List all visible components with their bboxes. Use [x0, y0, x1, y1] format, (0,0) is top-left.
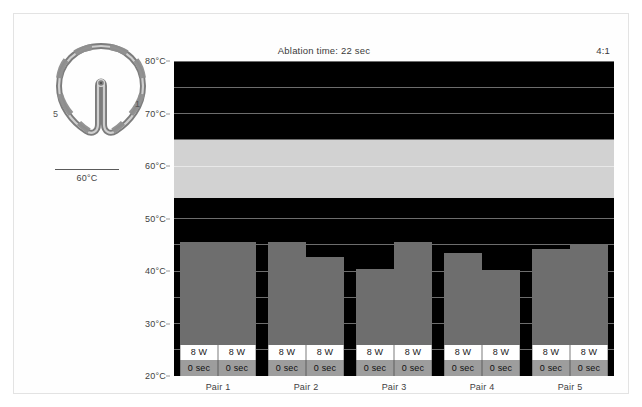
y-axis-tick-mark	[166, 323, 170, 324]
bar-time-label: 0 sec	[268, 360, 306, 376]
temperature-bar: 8 W0 sec	[180, 242, 218, 376]
temperature-bar: 8 W0 sec	[482, 270, 520, 376]
temperature-bar: 8 W0 sec	[306, 257, 344, 376]
temperature-bar: 8 W0 sec	[356, 269, 394, 376]
bar-time-label: 0 sec	[394, 360, 432, 376]
y-axis-tick-mark	[166, 61, 170, 62]
bar-time-label: 0 sec	[482, 360, 520, 376]
bar-time-label: 0 sec	[218, 360, 256, 376]
bar-time-label: 0 sec	[306, 360, 344, 376]
bar-time-label: 0 sec	[570, 360, 608, 376]
y-axis-tick-mark	[166, 166, 170, 167]
y-axis-tick-label: 30°C	[145, 319, 166, 329]
scale-legend-label: 60°C	[55, 173, 119, 183]
bar-time-label: 0 sec	[180, 360, 218, 376]
bar-power-label: 8 W	[532, 345, 570, 360]
x-axis-tick-label: Pair 5	[558, 382, 583, 392]
bar-power-label: 8 W	[218, 345, 256, 360]
bar-power-label: 8 W	[482, 345, 520, 360]
x-axis-tick-label: Pair 1	[206, 382, 231, 392]
bar-power-label: 8 W	[444, 345, 482, 360]
y-axis-tick-label: 80°C	[145, 56, 166, 66]
temperature-bar: 8 W0 sec	[532, 249, 570, 376]
y-axis-tick-mark	[166, 218, 170, 219]
bar-power-label: 8 W	[180, 345, 218, 360]
bar-power-label: 8 W	[570, 345, 608, 360]
y-axis-tick-label: 40°C	[145, 266, 166, 276]
bar-power-label: 8 W	[356, 345, 394, 360]
y-axis-tick-mark	[166, 376, 170, 377]
temperature-bar: 8 W0 sec	[268, 242, 306, 376]
temperature-bar: 8 W0 sec	[218, 242, 256, 376]
y-axis-tick-mark	[166, 271, 170, 272]
bar-power-label: 8 W	[306, 345, 344, 360]
scale-legend-line	[55, 169, 119, 170]
plot-ratio-label: 4:1	[596, 45, 610, 56]
x-axis-tick-label: Pair 2	[294, 382, 319, 392]
bar-power-label: 8 W	[268, 345, 306, 360]
y-axis: 20°C30°C40°C50°C60°C70°C80°C	[132, 61, 170, 376]
bar-time-label: 0 sec	[532, 360, 570, 376]
bar-time-label: 0 sec	[356, 360, 394, 376]
catheter-electrode-label-5: 5	[53, 109, 58, 119]
bar-series-container: 8 W0 sec8 W0 sec8 W0 sec8 W0 sec8 W0 sec…	[174, 61, 614, 376]
plot-area: 8 W0 sec8 W0 sec8 W0 sec8 W0 sec8 W0 sec…	[174, 61, 614, 376]
y-axis-tick-mark	[166, 113, 170, 114]
y-axis-tick-label: 20°C	[145, 371, 166, 381]
figure-root: 5 1 60°C Ablation time: 22 sec 4:1 20°C3…	[0, 0, 642, 407]
temperature-bar: 8 W0 sec	[570, 244, 608, 376]
temperature-bar: 8 W0 sec	[394, 242, 432, 376]
figure-panel: 5 1 60°C Ablation time: 22 sec 4:1 20°C3…	[13, 13, 629, 394]
x-axis: Pair 1Pair 2Pair 3Pair 4Pair 5	[174, 382, 614, 402]
x-axis-tick-label: Pair 3	[382, 382, 407, 392]
plot-title: Ablation time: 22 sec	[174, 45, 474, 56]
temperature-bar: 8 W0 sec	[444, 253, 482, 376]
y-axis-tick-label: 70°C	[145, 109, 166, 119]
temperature-scale-legend: 60°C	[55, 169, 119, 183]
bar-power-label: 8 W	[394, 345, 432, 360]
y-axis-tick-label: 50°C	[145, 214, 166, 224]
bar-time-label: 0 sec	[444, 360, 482, 376]
y-axis-tick-label: 60°C	[145, 161, 166, 171]
x-axis-tick-label: Pair 4	[470, 382, 495, 392]
